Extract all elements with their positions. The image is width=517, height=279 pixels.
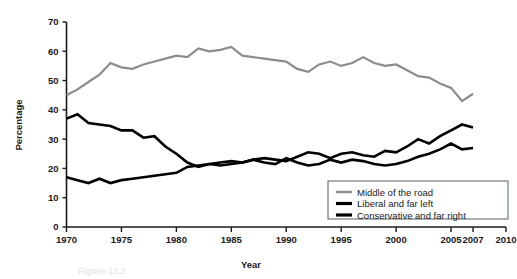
legend-label: Liberal and far left: [357, 198, 433, 209]
x-axis-title: Year: [241, 259, 261, 270]
x-tick-label: 1980: [166, 234, 187, 245]
x-tick-label: 1975: [111, 234, 133, 245]
x-tick-label: 1985: [221, 234, 243, 245]
x-axis-tick-labels: 1970197519801985199019952000200520072010: [56, 234, 517, 245]
x-tick-label: 2010: [495, 234, 516, 245]
y-tick-label: 60: [48, 46, 59, 57]
figure-container: 010203040506070 197019751980198519901995…: [0, 0, 517, 279]
y-tick-label: 50: [48, 75, 59, 86]
x-tick-label: 1990: [276, 234, 297, 245]
x-tick-label: 1970: [56, 234, 77, 245]
x-tick-label: 1995: [331, 234, 353, 245]
line-chart: 010203040506070 197019751980198519901995…: [0, 0, 517, 279]
y-tick-label: 40: [48, 104, 59, 115]
legend-label: Conservative and far right: [357, 210, 466, 221]
y-tick-label: 70: [48, 16, 59, 27]
x-tick-label: 2005: [440, 234, 462, 245]
x-tick-label: 2000: [386, 234, 407, 245]
y-axis-title: Percentage: [13, 99, 24, 150]
chart-background: [0, 0, 517, 279]
y-tick-label: 10: [48, 192, 59, 203]
legend-label: Middle of the road: [357, 187, 433, 198]
y-tick-label: 0: [53, 221, 58, 232]
chart-legend: Middle of the roadLiberal and far leftCo…: [328, 181, 508, 221]
y-tick-label: 30: [48, 134, 59, 145]
y-tick-label: 20: [48, 163, 59, 174]
figure-caption-partial: Figure 12.2: [78, 266, 126, 276]
x-tick-label: 2007: [462, 234, 483, 245]
